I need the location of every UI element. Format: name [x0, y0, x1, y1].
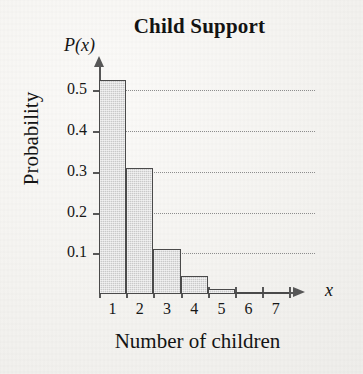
bar — [99, 80, 126, 294]
bar — [153, 249, 180, 294]
bar — [208, 289, 235, 294]
y-axis-tick-label: 0.1 — [41, 243, 87, 261]
x-axis-tick-label: 6 — [235, 300, 263, 318]
chart-page: Child Support P(x) 0.10.20.30.40.5 12345… — [0, 0, 363, 374]
x-axis-tick-label: 4 — [180, 300, 208, 318]
bar — [235, 292, 262, 294]
x-axis-tick — [289, 287, 291, 298]
x-axis-caption: Number of children — [0, 329, 363, 354]
y-axis-arrow-icon — [94, 56, 104, 67]
x-axis-tick-label: 7 — [262, 300, 290, 318]
x-axis-arrow-icon — [293, 287, 305, 297]
x-axis-tick-label: 2 — [126, 300, 154, 318]
y-axis-tick-label: 0.2 — [41, 203, 87, 221]
y-axis-tick-label: 0.4 — [41, 121, 87, 139]
y-axis-tick-label: 0.3 — [41, 162, 87, 180]
y-axis-variable-label: P(x) — [64, 35, 95, 56]
gridline — [99, 131, 315, 132]
x-axis-tick-label: 3 — [153, 300, 181, 318]
x-axis-tick-label: 1 — [99, 300, 127, 318]
bar — [126, 168, 153, 294]
y-axis-caption: Probability — [19, 44, 44, 234]
y-axis-tick-label: 0.5 — [41, 80, 87, 98]
x-axis-variable-label: x — [325, 280, 333, 301]
x-axis-tick-label: 5 — [207, 300, 235, 318]
bar — [181, 276, 208, 294]
chart-title: Child Support — [0, 14, 363, 39]
bar — [262, 292, 289, 294]
gridline — [99, 90, 315, 91]
